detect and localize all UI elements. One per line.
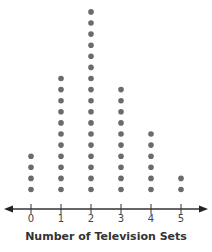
data-dot: [58, 142, 64, 148]
data-dot: [58, 153, 64, 159]
tick-label: 5: [174, 213, 188, 224]
data-dot: [148, 176, 154, 182]
data-dot: [118, 98, 124, 104]
tick-label: 0: [24, 213, 38, 224]
data-dot: [58, 120, 64, 126]
data-dot: [58, 187, 64, 193]
data-dot: [58, 176, 64, 182]
data-dot: [58, 87, 64, 93]
data-dot: [118, 109, 124, 115]
tick-label: 2: [84, 213, 98, 224]
data-dot: [58, 165, 64, 171]
data-dot: [148, 142, 154, 148]
data-dot: [88, 42, 94, 48]
tick-label: 3: [114, 213, 128, 224]
data-dot: [148, 153, 154, 159]
data-dot: [118, 165, 124, 171]
data-dot: [148, 187, 154, 193]
right-arrow-icon: [199, 206, 208, 213]
tick-label: 1: [54, 213, 68, 224]
data-dot: [118, 142, 124, 148]
data-dot: [148, 165, 154, 171]
data-dot: [178, 176, 184, 182]
data-dot: [58, 98, 64, 104]
data-dot: [88, 109, 94, 115]
data-dot: [88, 76, 94, 82]
data-dot: [88, 165, 94, 171]
data-dot: [88, 31, 94, 37]
data-dot: [28, 176, 34, 182]
data-dot: [88, 20, 94, 26]
dot-series: [28, 9, 184, 192]
data-dot: [88, 176, 94, 182]
data-dot: [88, 65, 94, 71]
data-dot: [118, 153, 124, 159]
data-dot: [88, 54, 94, 60]
data-dot: [58, 76, 64, 82]
data-dot: [148, 131, 154, 137]
x-axis-label: Number of Television Sets: [0, 230, 212, 243]
data-dot: [88, 9, 94, 15]
data-dot: [58, 131, 64, 137]
data-dot: [88, 142, 94, 148]
data-dot: [88, 98, 94, 104]
data-dot: [118, 176, 124, 182]
data-dot: [28, 165, 34, 171]
data-dot: [88, 87, 94, 93]
data-dot: [118, 131, 124, 137]
left-arrow-icon: [4, 206, 13, 213]
data-dot: [28, 153, 34, 159]
data-dot: [88, 120, 94, 126]
data-dot: [58, 109, 64, 115]
data-dot: [118, 120, 124, 126]
data-dot: [28, 187, 34, 193]
data-dot: [88, 153, 94, 159]
tick-label: 4: [144, 213, 158, 224]
data-dot: [88, 187, 94, 193]
data-dot: [118, 187, 124, 193]
data-dot: [118, 87, 124, 93]
data-dot: [178, 187, 184, 193]
data-dot: [88, 131, 94, 137]
